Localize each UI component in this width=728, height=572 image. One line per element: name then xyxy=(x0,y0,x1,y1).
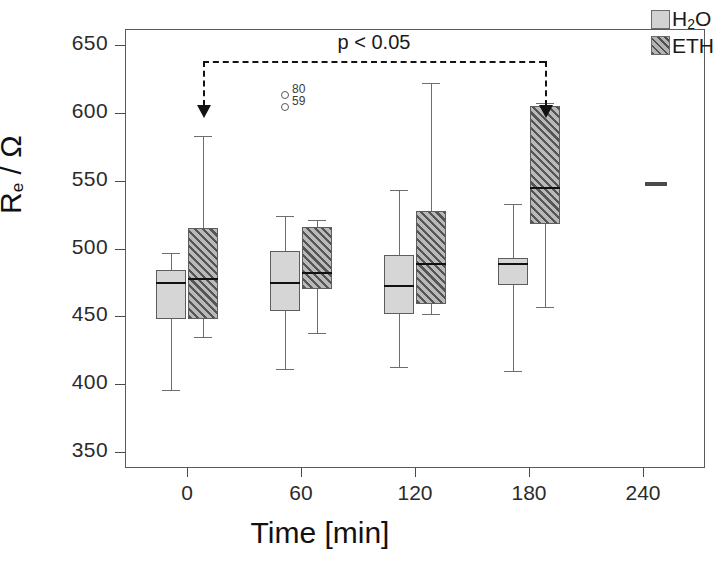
boxplot-median-line xyxy=(416,263,446,265)
significance-bracket-left-stem xyxy=(203,61,205,105)
y-tick-mark xyxy=(115,45,125,46)
y-tick-label: 600 xyxy=(0,99,108,123)
x-tick-label: 120 xyxy=(397,481,432,505)
legend-label-h2o: H2O xyxy=(672,8,711,31)
single-data-point-240 xyxy=(645,182,667,186)
boxplot-median-line xyxy=(270,282,300,284)
boxplot-box-h2o-t180 xyxy=(498,258,528,285)
y-tick-mark xyxy=(115,249,125,250)
boxplot-whisker-cap-lower xyxy=(536,307,554,308)
y-tick-mark xyxy=(115,384,125,385)
boxplot-whisker-cap-upper xyxy=(422,83,440,84)
y-axis-title-unit: / Ω xyxy=(0,135,27,174)
boxplot-whisker-cap-upper xyxy=(390,190,408,191)
x-tick-mark xyxy=(187,468,188,477)
legend-label-eth: ETH xyxy=(672,35,714,56)
boxplot-whisker-cap-lower xyxy=(422,314,440,315)
x-tick-label: 0 xyxy=(181,481,193,505)
boxplot-median-line xyxy=(384,285,414,287)
boxplot-whisker-line xyxy=(513,204,514,371)
significance-bracket-right-stem xyxy=(545,61,547,105)
legend-entry-eth: ETH xyxy=(651,32,714,58)
boxplot-box-eth-t60 xyxy=(302,227,332,289)
significance-bracket-horizontal xyxy=(203,61,545,63)
boxplot-box-eth-t180 xyxy=(530,106,560,224)
x-tick-label: 180 xyxy=(511,481,546,505)
y-tick-label: 650 xyxy=(0,31,108,55)
y-tick-label: 450 xyxy=(0,302,108,326)
x-tick-label: 240 xyxy=(625,481,660,505)
y-tick-mark xyxy=(115,316,125,317)
x-tick-mark xyxy=(415,468,416,477)
boxplot-median-line xyxy=(302,272,332,274)
boxplot-box-eth-t120 xyxy=(416,211,446,305)
x-tick-label: 60 xyxy=(289,481,312,505)
y-axis-title-base: R xyxy=(0,192,27,214)
boxplot-box-eth-t0 xyxy=(188,228,218,319)
boxplot-whisker-cap-lower xyxy=(162,390,180,391)
y-tick-label: 350 xyxy=(0,438,108,462)
boxplot-figure: 350400450500550600650 060120180240 Re / … xyxy=(0,0,728,572)
boxplot-whisker-cap-upper xyxy=(194,136,212,137)
legend-swatch-h2o-icon xyxy=(651,10,670,29)
boxplot-median-line xyxy=(530,187,560,189)
x-axis-title: Time [min] xyxy=(0,516,640,550)
boxplot-median-line xyxy=(188,278,218,280)
boxplot-box-h2o-t60 xyxy=(270,251,300,311)
boxplot-whisker-cap-lower xyxy=(308,333,326,334)
outlier-label: 59 xyxy=(292,94,305,108)
boxplot-whisker-cap-lower xyxy=(390,367,408,368)
boxplot-median-line xyxy=(498,263,528,265)
chart-legend: H2O ETH xyxy=(651,6,714,58)
boxplot-box-h2o-t0 xyxy=(156,270,186,319)
boxplot-whisker-cap-upper xyxy=(276,216,294,217)
significance-label: p < 0.05 xyxy=(338,31,411,54)
y-axis-title: Re / Ω xyxy=(0,135,28,214)
y-axis-title-sub: e xyxy=(8,183,27,192)
legend-swatch-eth-icon xyxy=(651,36,670,55)
y-tick-mark xyxy=(115,452,125,453)
boxplot-whisker-cap-upper xyxy=(162,253,180,254)
boxplot-whisker-cap-lower xyxy=(276,369,294,370)
boxplot-whisker-cap-lower xyxy=(194,337,212,338)
boxplot-median-line xyxy=(156,282,186,284)
x-tick-mark xyxy=(529,468,530,477)
y-tick-mark xyxy=(115,113,125,114)
y-tick-mark xyxy=(115,181,125,182)
significance-arrowhead-right-icon xyxy=(539,105,553,118)
boxplot-whisker-cap-lower xyxy=(504,371,522,372)
significance-arrowhead-left-icon xyxy=(197,105,211,118)
x-tick-mark xyxy=(301,468,302,477)
x-tick-mark xyxy=(643,468,644,477)
y-tick-label: 500 xyxy=(0,235,108,259)
y-tick-label: 400 xyxy=(0,370,108,394)
boxplot-whisker-cap-upper xyxy=(504,204,522,205)
boxplot-whisker-cap-upper xyxy=(308,220,326,221)
legend-entry-h2o: H2O xyxy=(651,6,714,32)
